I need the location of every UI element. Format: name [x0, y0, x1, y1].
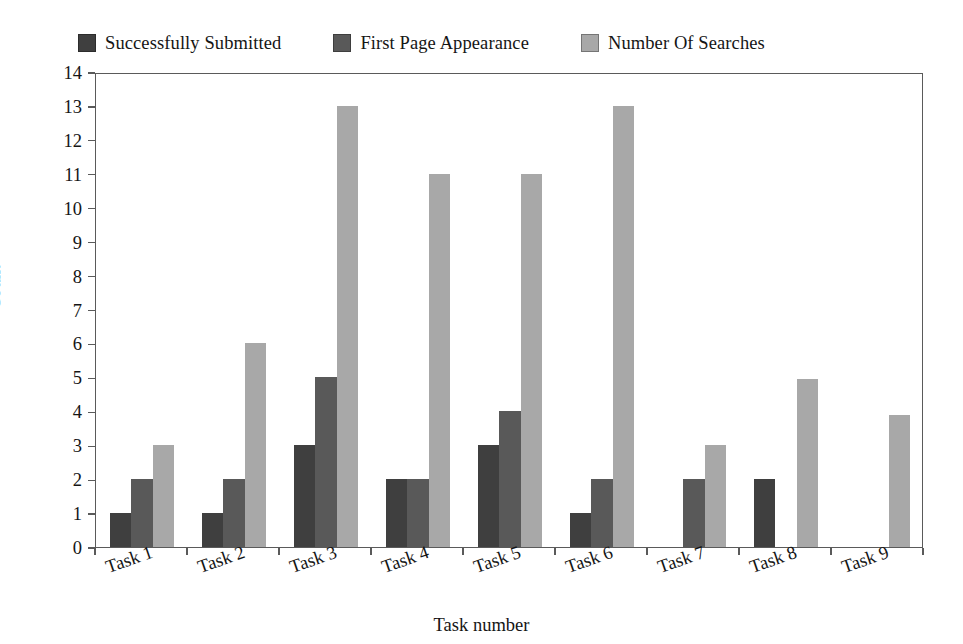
bar: [294, 445, 316, 547]
y-tick-mark: [88, 412, 95, 413]
bar-chart: Successfully Submitted First Page Appear…: [0, 0, 963, 644]
bar: [131, 479, 153, 547]
bar: [429, 174, 451, 547]
y-tick-mark: [88, 344, 95, 345]
x-tick-mark: [94, 548, 95, 555]
bar: [797, 379, 819, 547]
y-tick-mark: [88, 174, 95, 175]
legend-entry-first-page-appearance: First Page Appearance: [333, 33, 529, 54]
bar: [478, 445, 500, 547]
y-axis-title: Count: [0, 265, 5, 310]
y-tick-mark: [88, 276, 95, 277]
bar: [613, 106, 635, 547]
y-tick-label: 2: [48, 470, 82, 491]
bar: [386, 479, 408, 547]
bar: [407, 479, 429, 547]
y-tick-label: 3: [48, 436, 82, 457]
bar: [499, 411, 521, 547]
x-tick-mark: [462, 548, 463, 555]
legend-label-first-page-appearance: First Page Appearance: [360, 33, 529, 54]
y-tick-label: 11: [48, 164, 82, 185]
y-tick-label: 7: [48, 300, 82, 321]
y-tick-label: 0: [48, 538, 82, 559]
bar: [570, 513, 592, 547]
y-tick-label: 14: [48, 63, 82, 84]
y-tick-label: 12: [48, 130, 82, 151]
legend-entry-number-of-searches: Number Of Searches: [581, 33, 765, 54]
bar: [521, 174, 543, 547]
bar: [315, 377, 337, 547]
legend-swatch-icon-number-of-searches: [581, 34, 599, 52]
x-axis-title: Task number: [0, 615, 963, 636]
bar: [202, 513, 224, 547]
y-tick-mark: [88, 140, 95, 141]
legend-label-number-of-searches: Number Of Searches: [608, 33, 765, 54]
y-tick-mark: [88, 106, 95, 107]
y-tick-label: 9: [48, 232, 82, 253]
bar: [705, 445, 727, 547]
y-tick-label: 1: [48, 504, 82, 525]
y-tick-label: 10: [48, 198, 82, 219]
y-tick-mark: [88, 480, 95, 481]
y-tick-mark: [88, 310, 95, 311]
x-tick-mark: [922, 548, 923, 555]
bar: [337, 106, 359, 547]
y-tick-mark: [88, 72, 95, 73]
y-tick-label: 8: [48, 266, 82, 287]
legend-swatch-icon-first-page-appearance: [333, 34, 351, 52]
y-tick-label: 13: [48, 96, 82, 117]
bar: [110, 513, 132, 547]
legend-entry-successfully-submitted: Successfully Submitted: [78, 33, 281, 54]
legend-label-successfully-submitted: Successfully Submitted: [105, 33, 281, 54]
bar: [223, 479, 245, 547]
y-tick-mark: [88, 242, 95, 243]
bar: [153, 445, 175, 547]
y-tick-mark: [88, 378, 95, 379]
y-tick-label: 5: [48, 368, 82, 389]
y-tick-label: 6: [48, 334, 82, 355]
legend-swatch-icon-successfully-submitted: [78, 34, 96, 52]
x-tick-mark: [554, 548, 555, 555]
bar: [683, 479, 705, 547]
x-tick-mark: [186, 548, 187, 555]
x-tick-mark: [278, 548, 279, 555]
x-tick-mark: [370, 548, 371, 555]
y-tick-mark: [88, 208, 95, 209]
y-tick-label: 4: [48, 402, 82, 423]
bar: [591, 479, 613, 547]
y-tick-mark: [88, 513, 95, 514]
bars-layer: [96, 74, 922, 547]
x-tick-mark: [830, 548, 831, 555]
chart-legend: Successfully Submitted First Page Appear…: [78, 30, 898, 56]
x-tick-mark: [646, 548, 647, 555]
bar: [754, 479, 776, 547]
bar: [889, 415, 911, 547]
plot-area: [95, 73, 923, 548]
x-tick-mark: [738, 548, 739, 555]
y-tick-mark: [88, 446, 95, 447]
bar: [245, 343, 267, 547]
